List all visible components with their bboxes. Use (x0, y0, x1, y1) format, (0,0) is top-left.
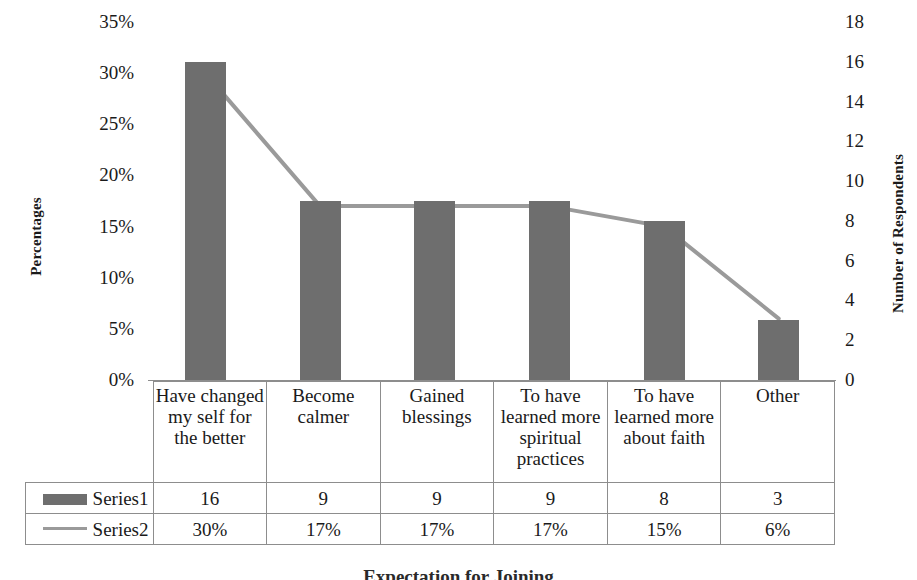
y-tick-label-left: 5% (62, 319, 134, 338)
category-label-cell: Other (721, 382, 835, 483)
bar-series1 (529, 201, 570, 380)
data-cell: 9 (494, 483, 608, 514)
y-tick-label-right: 6 (845, 251, 905, 270)
y-axis-left-ticks: 0%5%10%15%20%25%30%35% (62, 0, 134, 400)
chart-container: Percentages Number of Respondents 0%5%10… (0, 0, 917, 580)
data-table: Have changed my self for the betterBecom… (25, 381, 835, 545)
y-tick-label-left: 30% (62, 63, 134, 82)
table-row: Series11699983 (26, 483, 835, 514)
y-axis-right-ticks: 024681012141618 (845, 0, 905, 400)
bar-swatch-icon (43, 494, 87, 505)
table-row: Series230%17%17%17%15%6% (26, 514, 835, 545)
bar-series1 (185, 62, 226, 380)
data-cell: 15% (607, 514, 721, 545)
bar-series1 (300, 201, 341, 380)
category-label-cell: To have learned more about faith (607, 382, 721, 483)
bar-series1 (758, 320, 799, 380)
bar-series1 (414, 201, 455, 380)
line-swatch-icon (43, 527, 87, 530)
y-tick-label-left: 10% (62, 268, 134, 287)
y-tick-label-left: 20% (62, 165, 134, 184)
category-label-cell: To have learned more spiritual practices (494, 382, 608, 483)
legend-label: Series2 (93, 520, 149, 541)
y-tick-label-left: 25% (62, 114, 134, 133)
data-cell: 17% (494, 514, 608, 545)
legend-label: Series1 (93, 489, 149, 510)
data-cell: 6% (721, 514, 835, 545)
y-tick-label-right: 12 (845, 131, 905, 150)
category-label-cell: Have changed my self for the better (153, 382, 267, 483)
chart-caption: Expectation for Joining (0, 566, 917, 580)
y-axis-left-title: Percentages (28, 157, 45, 317)
y-tick-label-right: 4 (845, 290, 905, 309)
data-cell: 3 (721, 483, 835, 514)
data-cell: 9 (380, 483, 494, 514)
y-tick-label-left: 15% (62, 217, 134, 236)
category-label-cell: Gained blessings (380, 382, 494, 483)
series2-line (148, 22, 836, 380)
y-tick-label-right: 0 (845, 370, 905, 389)
table-row-categories: Have changed my self for the betterBecom… (26, 382, 835, 483)
y-tick-label-right: 16 (845, 52, 905, 71)
y-tick-label-left: 35% (62, 12, 134, 31)
data-cell: 17% (380, 514, 494, 545)
y-tick-label-right: 14 (845, 92, 905, 111)
data-cell: 8 (607, 483, 721, 514)
data-cell: 17% (267, 514, 381, 545)
y-tick-label-right: 2 (845, 330, 905, 349)
legend-cell-series2: Series2 (26, 514, 154, 545)
table-corner-cell (26, 382, 154, 483)
bar-series1 (644, 221, 685, 380)
legend-cell-series1: Series1 (26, 483, 154, 514)
series2-polyline (205, 73, 778, 319)
y-tick-label-right: 10 (845, 171, 905, 190)
y-tick-label-right: 18 (845, 12, 905, 31)
data-cell: 9 (267, 483, 381, 514)
data-cell: 30% (153, 514, 267, 545)
category-label-cell: Become calmer (267, 382, 381, 483)
plot-area (148, 22, 836, 380)
y-tick-label-right: 8 (845, 211, 905, 230)
data-cell: 16 (153, 483, 267, 514)
